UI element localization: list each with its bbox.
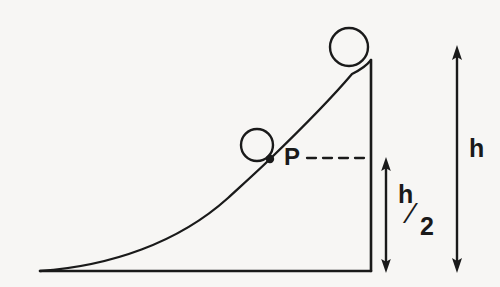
physics-diagram-figure: P h h ⁄ 2 <box>0 0 500 287</box>
height-h-half-slash: ⁄ <box>409 198 414 228</box>
height-h-label: h <box>469 136 484 161</box>
ramp-curve <box>40 60 371 271</box>
dimension-arrow-h-half <box>381 157 391 273</box>
point-p-label: P <box>284 145 300 169</box>
ball-top-circle <box>330 28 368 66</box>
dimension-arrow-h <box>452 45 462 273</box>
height-h-half-denominator: 2 <box>420 214 434 239</box>
height-h-half-label: h ⁄ 2 <box>398 182 442 244</box>
point-p-dot <box>266 155 274 163</box>
